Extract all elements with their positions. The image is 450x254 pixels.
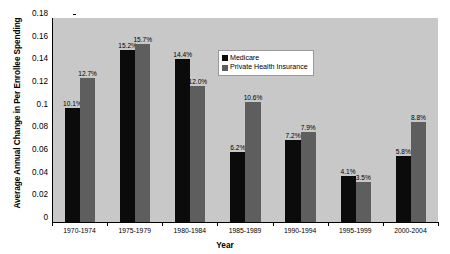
y-axis-tick-label: 0.06 <box>32 146 48 154</box>
bar-medicare: 4.1% <box>341 176 356 222</box>
bar-group: 5.8%8.8% <box>384 18 439 222</box>
plot-area: 10.1%12.7%15.2%15.7%14.4%12.0%6.2%10.6%7… <box>52 18 438 222</box>
bar-private-health-insurance: 12.0% <box>190 86 205 222</box>
x-axis-tick-mark <box>107 222 108 226</box>
y-axis-tick-label: 0 <box>43 214 48 222</box>
y-axis-tick-label: 0.14 <box>32 55 48 63</box>
y-axis-tick-label: 0.1 <box>37 101 48 109</box>
y-axis-tick-label: 0.18 <box>32 10 48 18</box>
bar-value-label: 10.6% <box>244 94 263 101</box>
legend-swatch-icon <box>222 55 228 61</box>
bar-value-label: 6.2% <box>230 144 245 151</box>
x-axis-tick-mark <box>217 222 218 226</box>
x-axis-tick-mark <box>162 222 163 226</box>
x-axis-tick-mark <box>438 222 439 226</box>
x-axis-title: Year <box>0 240 450 250</box>
bar-group: 14.4%12.0% <box>163 18 218 222</box>
bar-value-label: 12.7% <box>78 70 97 77</box>
y-axis-tick-labels: 00.020.040.060.080.10.120.140.160.18 <box>24 14 48 222</box>
bar-value-label: 3.5% <box>356 174 371 181</box>
bar-value-label: 7.2% <box>285 132 300 139</box>
legend-label: Medicare <box>230 54 259 63</box>
x-axis-tick-label: 1990-1994 <box>284 227 317 234</box>
bar-value-label: 10.1% <box>63 100 82 107</box>
bar-group: 4.1%3.5% <box>329 18 384 222</box>
x-axis-tick-label: 1980-1984 <box>174 227 207 234</box>
y-axis-tick-mark <box>73 14 76 15</box>
bar-private-health-insurance: 15.7% <box>135 44 150 222</box>
bar-private-health-insurance: 10.6% <box>245 102 260 222</box>
x-axis-tick-mark <box>383 222 384 226</box>
y-axis-title: Average Annual Change in Per Enrollee Sp… <box>10 3 24 223</box>
legend-swatch-icon <box>222 65 228 71</box>
x-axis-tick-mark <box>273 222 274 226</box>
bar-value-label: 7.9% <box>301 124 316 131</box>
bar-medicare: 5.8% <box>396 156 411 222</box>
bar-medicare: 7.2% <box>285 140 300 222</box>
legend-item-private-health-insurance: Private Health Insurance <box>222 63 308 72</box>
x-axis-tick-label: 1995-1999 <box>339 227 372 234</box>
y-axis-tick-label: 0.04 <box>32 169 48 177</box>
y-axis-line <box>52 18 53 223</box>
bar-private-health-insurance: 3.5% <box>356 182 371 222</box>
y-axis-tick-label: 0.08 <box>32 123 48 131</box>
bar-group: 7.2%7.9% <box>274 18 329 222</box>
bar-value-label: 4.1% <box>341 168 356 175</box>
bar-private-health-insurance: 7.9% <box>301 132 316 222</box>
bar-value-label: 5.8% <box>396 148 411 155</box>
y-axis-tick-label: 0.16 <box>32 33 48 41</box>
bar-value-label: 15.7% <box>133 36 152 43</box>
bar-medicare: 6.2% <box>230 152 245 222</box>
legend-label: Private Health Insurance <box>230 63 308 72</box>
bar-value-label: 12.0% <box>189 78 208 85</box>
bar-value-label: 8.8% <box>411 114 426 121</box>
x-axis-tick-label: 2000-2004 <box>394 227 427 234</box>
bar-private-health-insurance: 8.8% <box>411 122 426 222</box>
x-axis-tick-label: 1985-1989 <box>229 227 262 234</box>
bar-medicare: 10.1% <box>65 108 80 222</box>
y-axis-tick-label: 0.12 <box>32 78 48 86</box>
bar-group: 6.2%10.6% <box>218 18 273 222</box>
x-axis-tick-label: 1970-1974 <box>63 227 96 234</box>
x-axis-tick-mark <box>52 222 53 226</box>
bar-value-label: 14.4% <box>173 51 192 58</box>
bar-group: 15.2%15.7% <box>108 18 163 222</box>
y-axis-tick-label: 0.02 <box>32 191 48 199</box>
legend-item-medicare: Medicare <box>222 54 308 63</box>
chart-legend: Medicare Private Health Insurance <box>218 50 314 76</box>
bar-medicare: 15.2% <box>120 50 135 222</box>
bar-group: 10.1%12.7% <box>53 18 108 222</box>
x-axis-tick-label: 1975-1979 <box>118 227 151 234</box>
bar-private-health-insurance: 12.7% <box>80 78 95 222</box>
bar-chart: Average Annual Change in Per Enrollee Sp… <box>0 0 450 254</box>
x-axis-tick-mark <box>328 222 329 226</box>
